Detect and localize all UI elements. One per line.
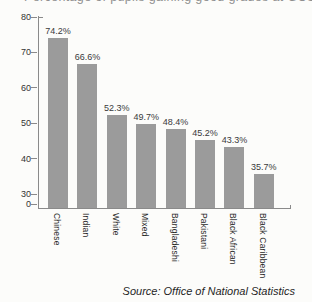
y-tick-mark-50 — [31, 123, 37, 124]
bar-value-chinese: 74.2% — [36, 26, 80, 36]
x-axis-line — [38, 208, 291, 209]
category-label-bangladeshi: Bangladeshi — [170, 213, 180, 262]
category-label-black-african: Black African — [228, 213, 238, 265]
y-tick-label-80: 80 — [9, 12, 31, 22]
category-label-black-caribbean: Black Caribbean — [258, 213, 268, 278]
bar-pakistani — [195, 140, 215, 208]
bar-value-black-african: 43.3% — [212, 135, 256, 145]
y-tick-mark-80 — [31, 17, 37, 18]
category-label-mixed: Mixed — [140, 213, 150, 237]
y-tick-label-40: 40 — [9, 154, 31, 164]
y-tick-label-60: 60 — [9, 83, 31, 93]
bar-mixed — [136, 124, 156, 208]
y-axis-top-tick — [38, 17, 43, 18]
y-tick-mark-30 — [31, 194, 37, 195]
category-label-chinese: Chinese — [52, 213, 62, 246]
bar-bangladeshi — [166, 129, 186, 208]
bar-black-african — [224, 147, 244, 208]
bar-chinese — [48, 38, 68, 208]
y-tick-mark-60 — [31, 87, 37, 88]
bar-value-black-caribbean: 35.7% — [242, 162, 286, 172]
bar-value-indian: 66.6% — [65, 52, 109, 62]
y-axis-line — [38, 16, 39, 208]
bar-indian — [77, 64, 97, 208]
y-tick-label-0: 0 — [9, 199, 31, 209]
category-label-indian: Indian — [81, 213, 91, 237]
y-tick-mark-70 — [31, 52, 37, 53]
y-tick-label-50: 50 — [9, 118, 31, 128]
y-tick-label-70: 70 — [9, 47, 31, 57]
x-axis-end-tick — [290, 205, 291, 208]
y-tick-mark-40 — [31, 158, 37, 159]
bar-white — [107, 115, 127, 208]
bar-value-bangladeshi: 48.4% — [154, 117, 198, 127]
category-label-white: White — [111, 213, 121, 236]
source-credit: Source: Office of National Statistics — [123, 285, 295, 297]
chart-title-clipped: Percentage of pupils gaining good grades… — [24, 0, 312, 4]
bar-chart-figure: Percentage of pupils gaining good grades… — [0, 0, 312, 302]
bar-black-caribbean — [254, 174, 274, 208]
y-tick-label-30: 30 — [9, 189, 31, 199]
category-label-pakistani: Pakistani — [199, 213, 209, 249]
y-tick-mark-0 — [31, 204, 37, 205]
